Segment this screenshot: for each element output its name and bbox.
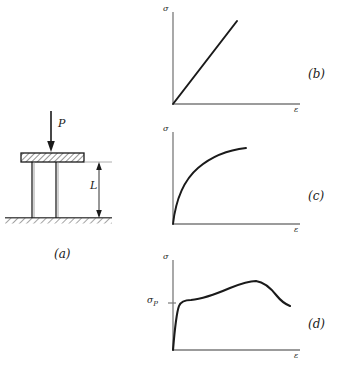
chart-c-svg (160, 124, 310, 236)
bearing-plate (21, 153, 84, 162)
column-walls (32, 162, 58, 218)
chart-d-ylabel: σ (163, 253, 168, 261)
load-label-P: P (58, 118, 65, 129)
chart-c-ylabel: σ (163, 125, 168, 133)
panel-label-d: (d) (308, 318, 325, 330)
dimension-label-L: L (90, 180, 97, 191)
panel-a-schematic: P L (0, 108, 160, 268)
panel-label-c: (c) (308, 190, 324, 202)
chart-d-xlabel: ε (294, 352, 298, 360)
chart-d-sigma-p-label: σP (147, 296, 158, 308)
panel-b-chart: σ ε (160, 4, 310, 116)
chart-b-svg (160, 4, 310, 116)
panel-label-a: (a) (54, 248, 71, 260)
chart-c-xlabel: ε (294, 226, 298, 234)
column-diagram-svg (0, 108, 160, 268)
chart-b-ylabel: σ (163, 5, 168, 13)
chart-d-series-curve (173, 281, 290, 350)
chart-b-series-line (173, 21, 237, 104)
chart-b-xlabel: ε (294, 106, 298, 114)
chart-c-series-curve (173, 148, 246, 224)
panel-c-chart: σ ε (160, 124, 310, 236)
panel-label-b: (b) (308, 68, 325, 80)
chart-d-svg (160, 252, 310, 370)
load-arrow-P (47, 111, 55, 152)
sigma-subscript: P (153, 300, 158, 308)
panel-d-chart: σP σ ε (160, 252, 310, 370)
ground-support (5, 218, 112, 224)
figure-root: P L (a) σ ε (b) σ ε (c) (0, 0, 342, 380)
